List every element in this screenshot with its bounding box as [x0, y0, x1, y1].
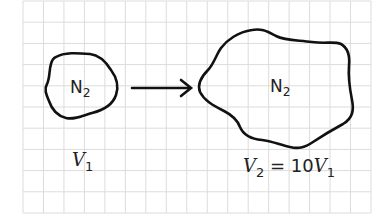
gas-subscript: 2 [283, 85, 291, 99]
volume-subscript: 2 [256, 165, 264, 180]
arrow-right-icon [132, 80, 191, 96]
gas-subscript: 2 [83, 86, 91, 100]
equals-ten: = 10 [264, 155, 313, 176]
large-region-gas-label: N2 [270, 78, 291, 95]
volume-symbol: V [314, 155, 327, 176]
small-region-gas-label: N2 [70, 79, 91, 96]
gas-symbol: N [270, 76, 283, 96]
small-volume-label: V1 [72, 151, 93, 169]
diagram-canvas [0, 0, 387, 219]
gas-symbol: N [70, 77, 83, 97]
large-volume-equation: V2 = 10V1 [243, 157, 335, 175]
volume-subscript: 1 [327, 165, 335, 180]
volume-subscript: 1 [85, 159, 93, 174]
graph-paper-grid [23, 1, 371, 213]
volume-symbol: V [243, 155, 256, 176]
volume-symbol: V [72, 149, 85, 170]
